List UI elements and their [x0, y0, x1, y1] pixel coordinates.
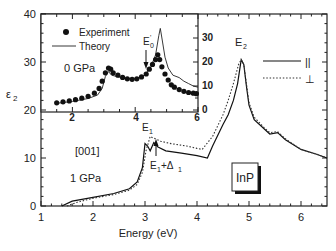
legend-perpendicular-label: ⊥ — [305, 73, 315, 85]
svg-text:10: 10 — [202, 80, 214, 91]
svg-text:2: 2 — [69, 112, 75, 123]
experiment-marker — [181, 89, 186, 94]
inset-x-tick-labels: 2 4 6 — [69, 112, 200, 123]
x-tick-6: 6 — [298, 211, 304, 223]
svg-text:E: E — [142, 122, 149, 133]
svg-text:6: 6 — [194, 112, 200, 123]
svg-text:E: E — [150, 160, 157, 171]
y-tick-30: 30 — [24, 56, 36, 68]
experiment-marker — [172, 85, 177, 90]
svg-text:E: E — [235, 36, 242, 48]
y-tick-20: 20 — [24, 104, 36, 116]
legend-theory-label: Theory — [79, 41, 110, 52]
pressure-inset-label: 0 GPa — [64, 62, 96, 74]
svg-text:ε: ε — [6, 88, 11, 100]
svg-text:2: 2 — [243, 43, 247, 50]
x-tick-3: 3 — [142, 211, 148, 223]
legend-experiment-label: Experiment — [79, 27, 130, 38]
svg-text:1: 1 — [149, 128, 153, 135]
svg-text:0: 0 — [150, 42, 154, 49]
chart-canvas: 0 10 20 30 40 1 2 3 4 5 6 Energy (eV) ε … — [0, 0, 336, 251]
svg-text:': ' — [150, 34, 151, 41]
x-tick-4: 4 — [194, 211, 200, 223]
y-tick-10: 10 — [24, 152, 36, 164]
experiment-marker — [139, 74, 144, 79]
y-tick-40: 40 — [24, 8, 36, 20]
experiment-marker — [134, 76, 139, 81]
experiment-marker — [120, 75, 125, 80]
svg-text:30: 30 — [202, 32, 214, 43]
experiment-marker — [147, 67, 152, 72]
experiment-marker — [150, 62, 155, 67]
x-axis-label: Energy (eV) — [119, 227, 178, 239]
experiment-marker — [103, 70, 108, 75]
experiment-marker — [194, 91, 199, 96]
experiment-marker — [177, 87, 182, 92]
main-x-tick-labels: 1 2 3 4 5 6 — [38, 211, 304, 223]
svg-text:1: 1 — [178, 166, 182, 173]
main-y-tick-labels: 0 10 20 30 40 — [24, 8, 36, 212]
experiment-marker — [86, 94, 91, 99]
experiment-marker — [166, 77, 171, 82]
svg-text:+Δ: +Δ — [161, 160, 174, 171]
experiment-marker — [60, 99, 65, 104]
experiment-marker — [115, 73, 120, 78]
svg-text:20: 20 — [202, 56, 214, 67]
y-axis-label: ε 2 — [6, 88, 18, 103]
material-label: InP — [236, 171, 254, 185]
experiment-marker — [155, 52, 160, 57]
svg-text:0: 0 — [202, 104, 208, 115]
pressure-main-label: 1 GPa — [70, 172, 102, 184]
material-label-box: InP — [232, 163, 261, 194]
experiment-marker — [130, 77, 135, 82]
inset-y-tick-labels: 0 10 20 30 — [202, 32, 214, 115]
experiment-marker — [157, 57, 162, 62]
main-legend: || ⊥ — [263, 56, 315, 85]
experiment-marker — [67, 98, 72, 103]
x-tick-1: 1 — [38, 211, 44, 223]
experiment-marker — [79, 96, 84, 101]
experiment-marker — [54, 100, 59, 105]
experiment-marker — [100, 79, 105, 84]
legend-parallel-label: || — [305, 56, 311, 68]
experiment-marker — [125, 76, 130, 81]
experiment-marker — [73, 97, 78, 102]
experiment-marker — [111, 70, 116, 75]
experiment-marker — [159, 64, 164, 69]
y-tick-0: 0 — [30, 200, 36, 212]
svg-text:E: E — [143, 36, 150, 47]
x-tick-5: 5 — [246, 211, 252, 223]
experiment-marker — [97, 86, 102, 91]
svg-text:4: 4 — [133, 112, 139, 123]
e2-annotation: E 2 — [235, 36, 247, 50]
x-tick-2: 2 — [90, 211, 96, 223]
experiment-marker — [186, 90, 191, 95]
legend-experiment-marker — [63, 29, 69, 35]
e1-annotation: E 1 — [142, 122, 153, 135]
orientation-label: [001] — [75, 145, 99, 157]
experiment-marker — [162, 71, 167, 76]
experiment-marker — [144, 71, 149, 76]
svg-text:2: 2 — [13, 94, 18, 103]
experiment-marker — [92, 91, 97, 96]
